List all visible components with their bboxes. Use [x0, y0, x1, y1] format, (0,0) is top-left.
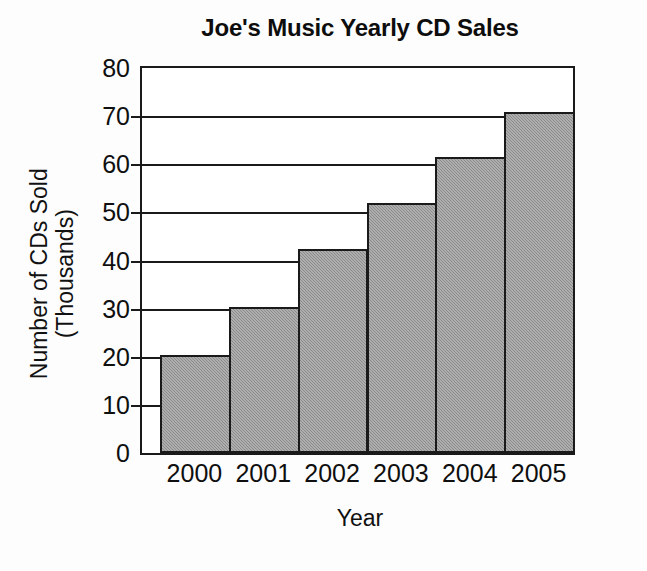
y-tick-mark — [131, 164, 140, 166]
x-axis-title: Year — [110, 505, 610, 532]
y-axis-title-line-1: Number of CDs Sold — [27, 114, 53, 434]
bar — [367, 203, 438, 453]
bars-group — [142, 68, 573, 453]
y-tick-mark — [131, 212, 140, 214]
bar — [504, 112, 575, 453]
bar — [435, 157, 506, 453]
bar-chart-figure: Joe's Music Yearly CD Sales Number of CD… — [0, 0, 647, 571]
y-axis-title-line-2: (Thousands) — [53, 114, 79, 434]
bar — [298, 249, 369, 453]
x-tick-label: 2005 — [489, 459, 588, 488]
y-tick-mark — [131, 405, 140, 407]
x-axis-tick-labels: 200020012002200320042005 — [140, 459, 575, 499]
y-tick-label: 80 — [60, 54, 130, 83]
bar — [229, 307, 300, 453]
y-tick-label: 0 — [60, 439, 130, 468]
y-tick-mark — [131, 309, 140, 311]
y-tick-mark — [131, 116, 140, 118]
y-tick-mark — [131, 357, 140, 359]
y-tick-mark — [131, 261, 140, 263]
chart-title: Joe's Music Yearly CD Sales — [110, 14, 610, 42]
bar — [160, 355, 231, 453]
y-axis-title: Number of CDs Sold (Thousands) — [27, 114, 79, 434]
plot-area — [140, 66, 575, 455]
